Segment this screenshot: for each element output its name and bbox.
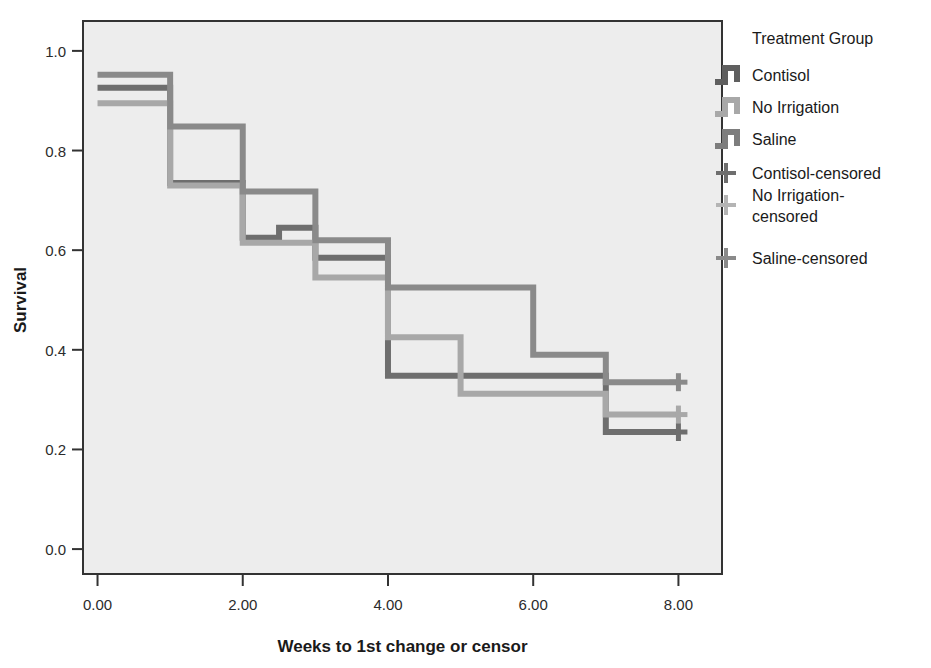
y-tick-label: 0.0 bbox=[45, 541, 66, 558]
survival-chart-figure: 0.00.20.40.60.81.0 0.002.004.006.008.00 … bbox=[0, 0, 931, 668]
x-tick-label: 6.00 bbox=[519, 596, 548, 613]
legend-item-no-irrigation[interactable]: No Irrigation bbox=[715, 99, 839, 116]
plot-background bbox=[83, 21, 722, 574]
legend-title: Treatment Group bbox=[752, 30, 873, 47]
x-tick-label: 0.00 bbox=[83, 596, 112, 613]
x-axis-ticks: 0.002.004.006.008.00 bbox=[83, 574, 693, 613]
legend-item-contisol[interactable]: Contisol bbox=[715, 67, 810, 84]
y-axis-ticks: 0.00.20.40.60.81.0 bbox=[45, 43, 83, 558]
legend-item-no-irrigation-censored[interactable]: No Irrigation-censored bbox=[716, 187, 844, 225]
y-tick-label: 1.0 bbox=[45, 43, 66, 60]
legend-label: Contisol-censored bbox=[752, 165, 881, 182]
y-axis-title: Survival bbox=[11, 267, 30, 333]
legend-label: Saline-censored bbox=[752, 250, 868, 267]
legend-label: Saline bbox=[752, 131, 797, 148]
y-tick-label: 0.2 bbox=[45, 441, 66, 458]
x-tick-label: 8.00 bbox=[664, 596, 693, 613]
x-tick-label: 2.00 bbox=[228, 596, 257, 613]
y-tick-label: 0.8 bbox=[45, 143, 66, 160]
legend-item-saline[interactable]: Saline bbox=[715, 131, 797, 148]
legend: Treatment GroupContisolNo IrrigationSali… bbox=[715, 30, 881, 268]
x-tick-label: 4.00 bbox=[373, 596, 402, 613]
legend-label: Contisol bbox=[752, 67, 810, 84]
legend-label: No Irrigation bbox=[752, 99, 839, 116]
y-tick-label: 0.6 bbox=[45, 242, 66, 259]
chart-canvas: 0.00.20.40.60.81.0 0.002.004.006.008.00 … bbox=[0, 0, 931, 668]
legend-item-saline-censored[interactable]: Saline-censored bbox=[716, 248, 868, 268]
y-tick-label: 0.4 bbox=[45, 342, 66, 359]
legend-item-contisol-censored[interactable]: Contisol-censored bbox=[716, 163, 881, 183]
legend-label: censored bbox=[752, 208, 818, 225]
legend-label: No Irrigation- bbox=[752, 187, 844, 204]
x-axis-title: Weeks to 1st change or censor bbox=[277, 637, 527, 656]
